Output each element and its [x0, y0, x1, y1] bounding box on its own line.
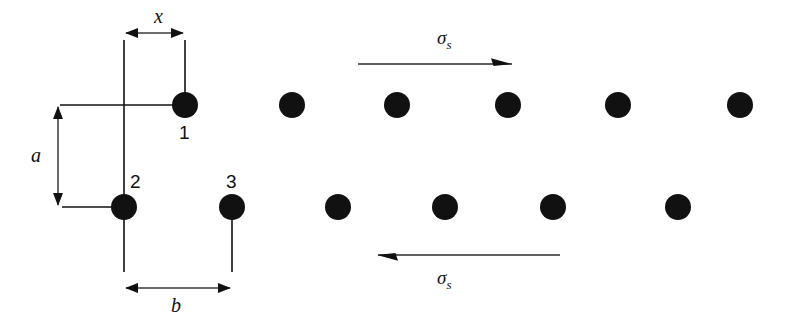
dislocation-dot	[219, 194, 245, 220]
dislocation-dot	[384, 92, 410, 118]
sigma-symbol-bottom: σ	[437, 267, 446, 288]
dislocation-dot	[605, 92, 631, 118]
dislocation-dot	[432, 194, 458, 220]
dislocation-dot	[279, 92, 305, 118]
dislocation-dot	[325, 194, 351, 220]
dislocation-3-label: 3	[226, 172, 237, 191]
dislocation-array-figure: x a b 1 2 3 σs σs	[0, 0, 786, 330]
sigma-symbol-top: σ	[437, 27, 446, 48]
dislocation-1-label: 1	[179, 123, 190, 142]
b-spacing-label: b	[171, 295, 181, 315]
dislocation-dot	[540, 194, 566, 220]
dislocation-dot	[727, 92, 753, 118]
figure-canvas	[0, 0, 786, 330]
dislocation-2-label: 2	[130, 172, 141, 191]
dislocation-dot	[111, 194, 137, 220]
a-spacing-label: a	[31, 145, 41, 165]
dislocation-dot	[665, 194, 691, 220]
sigma-subscript-top: s	[446, 37, 451, 52]
lower-row-dislocations	[111, 194, 691, 220]
shear-stress-label-bottom: σs	[437, 268, 451, 291]
dislocation-dot	[172, 92, 198, 118]
x-spacing-label: x	[154, 6, 163, 26]
dislocation-dot	[495, 92, 521, 118]
shear-stress-label-top: σs	[437, 28, 451, 51]
sigma-subscript-bottom: s	[446, 277, 451, 292]
upper-row-dislocations	[172, 92, 753, 118]
